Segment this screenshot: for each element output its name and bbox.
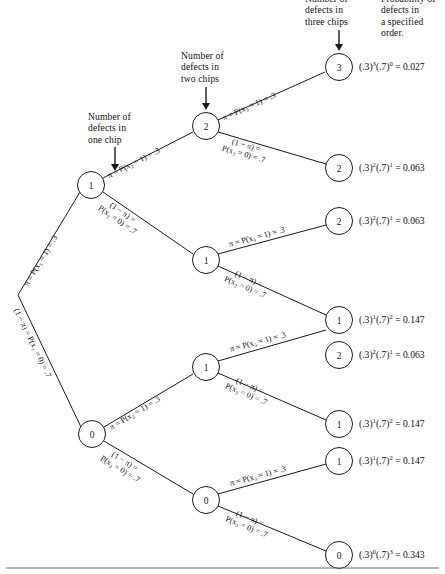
caption-line: Number of (181, 50, 224, 61)
caption-three-chips: Number of defects in three chips (305, 0, 348, 27)
node-label: 3 (337, 63, 342, 73)
outcome-exponent: 0 (389, 60, 392, 67)
node-leaf-1c: 1 (326, 448, 353, 475)
outcome-value: = 0.063 (395, 215, 424, 226)
outcome-value: = 0.027 (395, 61, 424, 72)
outcome-expression: (.3)3(.7)0 = 0.027 (359, 61, 425, 72)
node-leaf-2b: 2 (326, 208, 353, 235)
node-leaf-2a: 2 (326, 155, 353, 182)
outcome-base: (.7) (376, 349, 390, 360)
outcome-exponent: 1 (389, 214, 392, 221)
outcome-value: = 0.147 (395, 455, 424, 466)
caption-line: defects in (381, 4, 435, 15)
tree-graphics: 1 0 2 1 1 0 3 2 (0, 0, 445, 574)
caption-line: defects in (305, 4, 348, 15)
node-label: 0 (90, 430, 95, 440)
node-leaf-2d: 2 (326, 342, 353, 369)
outcome-base: (.3) (359, 418, 373, 429)
outcome-exponent: 1 (389, 348, 392, 355)
outcome-expression: (.3)2(.7)1 = 0.063 (359, 215, 425, 226)
node-label: 1 (337, 316, 342, 326)
edges-root (18, 192, 81, 427)
outcome-base: (.7) (376, 549, 390, 560)
outcome-base: (.7) (376, 162, 390, 173)
outcome-base: (.3) (359, 215, 373, 226)
outcome-value: = 0.063 (395, 349, 424, 360)
caption-line: two chips (181, 73, 224, 84)
arrow-three-chips (335, 30, 343, 51)
node-level2-1a: 1 (193, 247, 220, 274)
outcome-base: (.3) (359, 455, 373, 466)
outcome-base: (.3) (359, 314, 373, 325)
outcome-exponent: 2 (389, 313, 392, 320)
outcome-base: (.7) (376, 314, 390, 325)
caption-line: defects in (88, 122, 131, 133)
node-label: 2 (337, 351, 342, 361)
node-level1-1: 1 (78, 172, 105, 199)
node-leaf-0: 0 (326, 542, 353, 569)
node-label: 2 (337, 217, 342, 227)
caption-line: defects in (181, 61, 224, 72)
node-label: 2 (204, 122, 209, 132)
caption-line: one chip (88, 134, 131, 145)
node-level2-0: 0 (193, 487, 220, 514)
outcome-exponent: 2 (389, 417, 392, 424)
node-label: 1 (337, 457, 342, 467)
arrow-two-chips (202, 87, 210, 110)
node-label: 0 (204, 496, 209, 506)
outcome-expression: (.3)2(.7)1 = 0.063 (359, 162, 425, 173)
outcome-exponent: 3 (389, 548, 392, 555)
outcome-expression: (.3)1(.7)2 = 0.147 (359, 455, 425, 466)
node-leaf-1a: 1 (326, 307, 353, 334)
outcome-exponent: 2 (389, 454, 392, 461)
outcome-value: = 0.147 (395, 314, 424, 325)
outcome-base: (.7) (376, 215, 390, 226)
edges-level1 (103, 132, 193, 494)
outcome-expression: (.3)1(.7)2 = 0.147 (359, 418, 425, 429)
outcome-value: = 0.343 (395, 549, 424, 560)
node-label: 2 (337, 164, 342, 174)
node-level1-0: 0 (79, 421, 106, 448)
caption-line: a specified (381, 16, 435, 27)
node-label: 1 (204, 256, 209, 266)
outcome-base: (.3) (359, 162, 373, 173)
outcome-base: (.7) (376, 61, 390, 72)
node-level2-1b: 1 (193, 354, 220, 381)
outcome-base: (.3) (359, 61, 373, 72)
caption-line: order. (381, 27, 435, 38)
outcome-value: = 0.147 (395, 418, 424, 429)
outcome-expression: (.3)1(.7)2 = 0.147 (359, 314, 425, 325)
outcome-base: (.3) (359, 349, 373, 360)
outcome-base: (.7) (376, 418, 390, 429)
node-level2-2: 2 (193, 113, 220, 140)
caption-one-chip: Number of defects in one chip (88, 111, 131, 145)
node-label: 1 (204, 363, 209, 373)
caption-line: Number of (88, 111, 131, 122)
outcome-expression: (.3)2(.7)1 = 0.063 (359, 349, 425, 360)
node-leaf-1b: 1 (326, 411, 353, 438)
node-label: 0 (337, 551, 342, 561)
outcome-base: (.3) (359, 549, 373, 560)
node-label: 1 (89, 181, 94, 191)
caption-two-chips: Number of defects in two chips (181, 50, 224, 84)
node-label: 1 (337, 420, 342, 430)
outcome-exponent: 1 (389, 161, 392, 168)
outcome-expression: (.3)0(.7)3 = 0.343 (359, 549, 425, 560)
tree-diagram-figure: 1 0 2 1 1 0 3 2 (0, 0, 445, 574)
outcome-value: = 0.063 (395, 162, 424, 173)
caption-line: three chips (305, 16, 348, 27)
caption-probability: Probability of defects in a specified or… (381, 0, 435, 39)
node-leaf-3: 3 (326, 54, 353, 81)
outcome-base: (.7) (376, 455, 390, 466)
